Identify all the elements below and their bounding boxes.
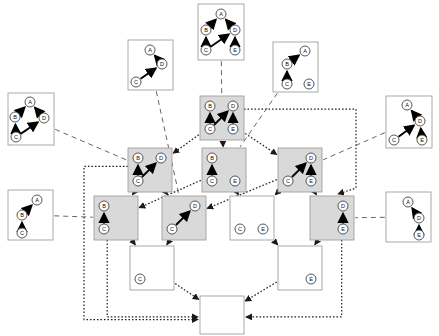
- vertex-label-D: D: [160, 61, 164, 67]
- vertex-E: E: [306, 176, 316, 186]
- vertex-C: C: [389, 135, 399, 145]
- lattice-link-lat-L3-CD--lat-L4-C: [167, 241, 169, 245]
- vertex-label-A: A: [219, 11, 223, 17]
- vertex-label-A: A: [303, 48, 307, 54]
- vertex-label-C: C: [208, 126, 212, 132]
- lattice-node-lat-L2-BC-E[interactable]: BCE: [202, 148, 246, 192]
- vertex-label-A: A: [406, 199, 410, 205]
- vertex-label-C: C: [20, 230, 24, 236]
- box-frame-lat-L3-C-E: [230, 196, 274, 240]
- lattice-link-lat-L1-BDCE--lat-L2-BDC: [173, 135, 199, 153]
- vertex-label-B: B: [204, 27, 208, 33]
- vertex-label-A: A: [405, 102, 409, 108]
- vertex-C: C: [167, 224, 177, 234]
- diagram-canvas: ABCDEADCABCEABCDADCEABCADEBDCEBDCBCEDCEB…: [0, 0, 439, 336]
- example-graph-outer-upper-left-AD-C[interactable]: ADC: [128, 40, 173, 90]
- vertex-B: B: [205, 101, 215, 111]
- vertex-label-E: E: [307, 81, 311, 87]
- vertex-C: C: [201, 45, 211, 55]
- vertex-label-E: E: [341, 226, 345, 232]
- example-graph-outer-top-center[interactable]: ABCDE: [198, 4, 244, 60]
- example-graph-outer-far-left-bottom[interactable]: ABC: [8, 190, 53, 240]
- vertex-label-B: B: [20, 212, 24, 218]
- vertex-label-B: B: [210, 155, 214, 161]
- lattice-node-lat-L3-C-E[interactable]: CE: [230, 196, 274, 240]
- vertex-E: E: [417, 135, 427, 145]
- vertex-label-D: D: [231, 103, 235, 109]
- vertex-D: D: [156, 153, 166, 163]
- vertex-A: A: [402, 100, 412, 110]
- vertex-A: A: [25, 97, 35, 107]
- vertex-label-D: D: [159, 155, 163, 161]
- annotation-link-outer-far-right-top--lat-L2-CDE: [323, 133, 385, 160]
- box-frame-lat-L4-C: [130, 246, 174, 290]
- vertex-label-D: D: [233, 27, 237, 33]
- vertex-B: B: [133, 153, 143, 163]
- lattice-node-lat-L4-E[interactable]: E: [278, 246, 322, 290]
- lattice-link-lat-L1-BDCE--lat-L2-CDE: [245, 133, 277, 154]
- vertex-E: E: [304, 79, 314, 89]
- box-frame-lat-L3-DE: [310, 196, 354, 240]
- vertex-label-D: D: [193, 203, 197, 209]
- vertex-label-C: C: [136, 178, 140, 184]
- annotation-link-outer-far-left-bottom--lat-L3-BC: [54, 216, 93, 217]
- vertex-label-C: C: [138, 276, 142, 282]
- box-frame-lat-L4-E: [278, 246, 322, 290]
- lattice-node-lat-L5-empty[interactable]: [200, 296, 244, 334]
- lattice-diagram-svg: ABCDEADCABCEABCDADCEABCADEBDCEBDCBCEDCEB…: [0, 0, 439, 336]
- lattice-node-lat-L2-CDE[interactable]: DCE: [278, 148, 322, 192]
- lattice-node-lat-L2-BDC[interactable]: BDC: [128, 148, 172, 192]
- vertex-label-C: C: [102, 226, 106, 232]
- vertex-B: B: [99, 201, 109, 211]
- vertex-label-C: C: [204, 47, 208, 53]
- vertex-label-C: C: [210, 178, 214, 184]
- lattice-link-lat-L2-BC-E--lat-L3-C-E: [238, 193, 239, 195]
- vertex-label-B: B: [13, 114, 17, 120]
- vertex-D: D: [414, 213, 424, 223]
- vertex-D: D: [230, 25, 240, 35]
- vertex-label-D: D: [42, 115, 46, 121]
- vertex-label-D: D: [417, 215, 421, 221]
- vertex-A: A: [300, 46, 310, 56]
- lattice-node-lat-L1-BDCE[interactable]: BDCE: [200, 96, 244, 140]
- vertex-C: C: [11, 132, 21, 142]
- vertex-label-B: B: [136, 155, 140, 161]
- vertex-label-C: C: [392, 137, 396, 143]
- example-graph-outer-far-right-top[interactable]: ADCE: [386, 96, 432, 148]
- lattice-node-lat-L3-DE[interactable]: DE: [310, 196, 354, 240]
- vertex-B: B: [282, 59, 292, 69]
- example-graph-outer-upper-right-ABC-E[interactable]: ABCE: [273, 42, 318, 92]
- example-graph-outer-far-right-bottom[interactable]: ADE: [386, 192, 431, 242]
- vertex-label-C: C: [170, 226, 174, 232]
- lattice-node-lat-L3-CD[interactable]: DC: [162, 196, 206, 240]
- box-frame-lat-L5-empty: [200, 296, 244, 334]
- annotation-link-outer-far-left-top--lat-L2-BDC: [55, 129, 127, 160]
- vertex-C: C: [99, 224, 109, 234]
- vertex-C: C: [283, 176, 293, 186]
- vertex-label-E: E: [233, 47, 237, 53]
- vertex-label-C: C: [285, 81, 289, 87]
- vertex-A: A: [403, 197, 413, 207]
- vertex-label-E: E: [309, 178, 313, 184]
- vertex-label-C: C: [286, 178, 290, 184]
- vertex-B: B: [201, 25, 211, 35]
- lattice-node-lat-L3-BC[interactable]: BC: [94, 196, 138, 240]
- graph-box-layer: ABCDEADCABCEABCDADCEABCADEBDCEBDCBCEDCEB…: [8, 4, 432, 334]
- vertex-D: D: [39, 113, 49, 123]
- vertex-label-D: D: [309, 155, 313, 161]
- vertex-C: C: [235, 224, 245, 234]
- vertex-label-B: B: [102, 203, 106, 209]
- vertex-label-E: E: [420, 137, 424, 143]
- vertex-C: C: [131, 77, 141, 87]
- vertex-B: B: [207, 153, 217, 163]
- lattice-node-lat-L4-C[interactable]: C: [130, 246, 174, 290]
- vertex-C: C: [133, 176, 143, 186]
- vertex-D: D: [228, 101, 238, 111]
- lattice-link-lat-L2-BDC--lat-L3-BC: [132, 193, 133, 195]
- vertex-D: D: [306, 153, 316, 163]
- lattice-link-lat-L2-CDE--lat-L3-DE: [315, 193, 316, 195]
- vertex-D: D: [157, 59, 167, 69]
- vertex-C: C: [207, 176, 217, 186]
- vertex-E: E: [338, 224, 348, 234]
- example-graph-outer-far-left-top[interactable]: ABCD: [8, 93, 54, 145]
